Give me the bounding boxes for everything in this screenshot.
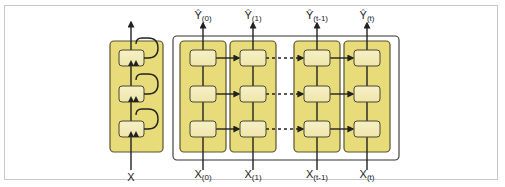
input-label-t: X(t): [360, 168, 375, 182]
folded-input-label: X: [127, 171, 135, 183]
rnn-diagram: X: [0, 0, 505, 187]
input-label-t-1: X(t-1): [306, 168, 328, 182]
output-label-1: Ŷ(1): [244, 9, 261, 23]
input-label-1: X(1): [244, 168, 261, 182]
output-label-t-1: Ŷ(t-1): [306, 9, 328, 23]
unrolled-rnn: Ŷ(0) Ŷ(1) Ŷ(t-1) Ŷ(t) X(0) X(1) X(t-1) X…: [173, 9, 399, 182]
folded-rnn: X: [110, 22, 163, 183]
output-label-0: Ŷ(0): [194, 9, 211, 23]
output-label-t: Ŷ(t): [360, 9, 375, 23]
input-label-0: X(0): [194, 168, 211, 182]
